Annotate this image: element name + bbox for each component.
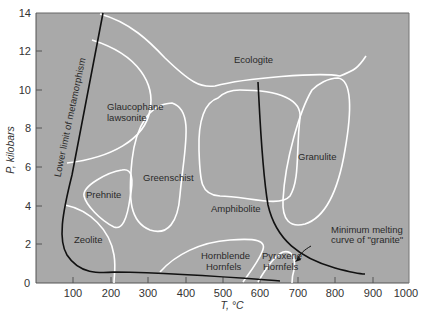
x-tick-300: 300 <box>139 287 157 299</box>
label-zeolite: Zeolite <box>74 234 103 245</box>
label-melting-2: curve of "granite" <box>331 234 403 245</box>
y-tick-6: 6 <box>25 161 31 173</box>
facies-diagram: 0 2 4 6 8 10 12 14 100 200 300 400 500 6… <box>0 0 425 312</box>
x-tick-200: 200 <box>102 287 120 299</box>
label-ecologite: Ecologite <box>234 54 273 65</box>
label-hornblende-hornfels: Hornfels <box>206 261 242 272</box>
x-tick-900: 900 <box>364 287 382 299</box>
x-tick-500: 500 <box>214 287 232 299</box>
label-prehnite: Prehnite <box>86 189 121 200</box>
label-lawsonite: lawsonite <box>107 112 147 123</box>
label-glaucophane: Glaucophane <box>107 101 164 112</box>
y-tick-10: 10 <box>19 84 31 96</box>
x-tick-400: 400 <box>177 287 195 299</box>
x-tick-800: 800 <box>326 287 344 299</box>
x-tick-600: 600 <box>251 287 269 299</box>
x-tick-1000: 1000 <box>394 287 418 299</box>
label-granulite: Granulite <box>298 151 337 162</box>
y-tick-8: 8 <box>25 122 31 134</box>
y-axis-label: P, kilobars <box>4 125 16 173</box>
label-pyroxene: Pyroxene <box>262 250 302 261</box>
y-tick-14: 14 <box>19 7 31 19</box>
x-tick-700: 700 <box>289 287 307 299</box>
label-amphibolite: Amphibolite <box>211 203 261 214</box>
x-tick-100: 100 <box>64 287 82 299</box>
label-hornblende: Hornblende <box>201 250 250 261</box>
label-pyroxene-hornfels: Hornfels <box>263 261 299 272</box>
y-tick-2: 2 <box>25 238 31 250</box>
x-axis-label: T, °C <box>220 299 243 311</box>
label-greenschist: Greenschist <box>143 172 194 183</box>
y-tick-0: 0 <box>24 277 30 289</box>
y-tick-12: 12 <box>19 45 31 57</box>
y-tick-4: 4 <box>25 200 31 212</box>
